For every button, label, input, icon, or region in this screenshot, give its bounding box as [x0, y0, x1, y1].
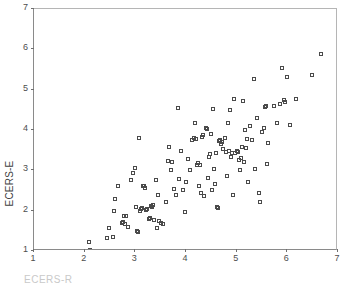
data-point: [272, 104, 276, 108]
y-axis-label: ECERS-E: [4, 149, 15, 219]
data-point: [133, 166, 137, 170]
data-point: [176, 106, 180, 110]
data-point: [181, 188, 185, 192]
y-tick-label: 5: [14, 83, 28, 93]
y-tick-mark: [31, 169, 34, 170]
x-tick-label: 7: [325, 253, 349, 263]
data-point: [319, 52, 323, 56]
y-tick-mark: [31, 8, 34, 9]
data-point: [111, 235, 115, 239]
data-point: [129, 178, 133, 182]
data-point: [174, 193, 178, 197]
data-point: [116, 184, 120, 188]
data-point: [143, 186, 147, 190]
data-point: [151, 203, 155, 207]
data-point: [170, 160, 174, 164]
x-tick-label: 4: [173, 253, 197, 263]
data-point: [177, 177, 181, 181]
data-point: [213, 182, 217, 186]
data-point: [220, 140, 224, 144]
data-point: [285, 75, 289, 79]
data-point: [211, 107, 215, 111]
y-tick-label: 2: [14, 204, 28, 214]
data-point: [245, 137, 249, 141]
data-point: [193, 121, 197, 125]
data-point: [134, 205, 138, 209]
x-tick-mark: [286, 249, 287, 252]
data-point: [107, 226, 111, 230]
data-points-layer: [34, 9, 336, 249]
x-tick-mark: [236, 249, 237, 252]
x-tick-mark: [134, 249, 135, 252]
data-point: [253, 167, 257, 171]
x-tick-mark: [337, 249, 338, 252]
x-tick-mark: [84, 249, 85, 252]
data-point: [265, 162, 269, 166]
data-point: [257, 191, 261, 195]
data-point: [216, 206, 220, 210]
data-point: [244, 146, 248, 150]
y-tick-mark: [31, 129, 34, 130]
data-point: [228, 108, 232, 112]
data-point: [169, 168, 173, 172]
data-point: [294, 97, 298, 101]
data-point: [209, 132, 213, 136]
data-point: [126, 225, 130, 229]
data-point: [88, 248, 92, 249]
data-point: [248, 124, 252, 128]
data-point: [184, 180, 188, 184]
data-point: [183, 210, 187, 214]
data-point: [124, 214, 128, 218]
y-tick-label: 6: [14, 42, 28, 52]
data-point: [156, 193, 160, 197]
data-point: [136, 230, 140, 234]
data-point: [310, 73, 314, 77]
data-point: [212, 167, 216, 171]
data-point: [238, 168, 242, 172]
data-point: [210, 188, 214, 192]
x-tick-label: 1: [21, 253, 45, 263]
data-point: [186, 157, 190, 161]
data-point: [112, 209, 116, 213]
data-point: [155, 226, 159, 230]
data-point: [250, 138, 254, 142]
data-point: [137, 136, 141, 140]
x-axis-label: ECERS-R: [24, 274, 73, 285]
data-point: [242, 160, 246, 164]
data-point: [255, 116, 259, 120]
x-tick-label: 6: [274, 253, 298, 263]
y-tick-label: 1: [14, 244, 28, 254]
data-point: [179, 149, 183, 153]
data-point: [194, 137, 198, 141]
data-point: [258, 200, 262, 204]
x-tick-label: 2: [72, 253, 96, 263]
data-point: [288, 123, 292, 127]
y-tick-mark: [31, 250, 34, 251]
y-tick-mark: [31, 210, 34, 211]
y-tick-mark: [31, 48, 34, 49]
data-point: [278, 102, 282, 106]
data-point: [262, 126, 266, 130]
data-point: [208, 152, 212, 156]
data-point: [205, 127, 209, 131]
data-point: [154, 178, 158, 182]
data-point: [223, 136, 227, 140]
y-tick-label: 4: [14, 123, 28, 133]
data-point: [164, 200, 168, 204]
data-point: [264, 104, 268, 108]
data-point: [198, 163, 202, 167]
scatter-plot-figure: 1234567 1234567 ECERS-E ECERS-R: [0, 0, 355, 287]
data-point: [280, 66, 284, 70]
data-point: [275, 121, 279, 125]
data-point: [172, 187, 176, 191]
x-tick-label: 5: [224, 253, 248, 263]
data-point: [283, 100, 287, 104]
data-point: [266, 141, 270, 145]
data-point: [202, 194, 206, 198]
data-point: [214, 151, 218, 155]
data-point: [225, 174, 229, 178]
y-tick-label: 3: [14, 163, 28, 173]
data-point: [105, 236, 109, 240]
y-tick-mark: [31, 89, 34, 90]
data-point: [206, 176, 210, 180]
